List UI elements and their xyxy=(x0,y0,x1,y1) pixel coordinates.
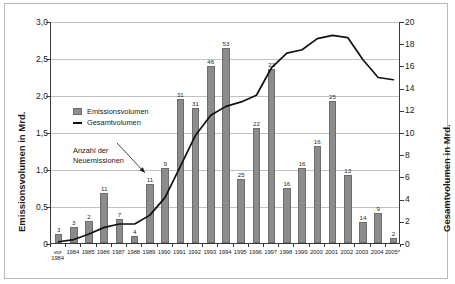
y-axis-right-tick-mark xyxy=(400,222,404,223)
chart-legend: Emissionsvolumen Gesamtvolumen xyxy=(73,106,149,128)
bar xyxy=(70,227,78,243)
x-axis-tick-mark xyxy=(202,244,203,247)
y-axis-right-tick-label: 4 xyxy=(405,194,435,204)
y-axis-right-tick-label: 8 xyxy=(405,150,435,160)
y-axis-left-tick-label: 0,5 xyxy=(8,202,48,212)
bar-value-label: 46 xyxy=(203,58,218,65)
bar-value-label: 31 xyxy=(188,100,203,107)
legend-line-swatch-icon xyxy=(73,122,82,124)
y-axis-left-tick-label: 2,0 xyxy=(8,91,48,101)
bar-value-label: 53 xyxy=(218,40,233,47)
x-axis-tick-mark xyxy=(400,244,401,247)
bar xyxy=(192,108,200,243)
x-axis-tick-mark xyxy=(172,244,173,247)
y-axis-left-tick-label: 1,0 xyxy=(8,165,48,175)
legend-label-emissionsvolumen: Emissionsvolumen xyxy=(87,106,149,117)
x-axis-tick-mark xyxy=(111,244,112,247)
bar-value-label: 4 xyxy=(127,228,142,235)
bar xyxy=(85,221,93,243)
bar-value-label: 2 xyxy=(81,213,96,220)
bar-value-label: 23 xyxy=(264,61,279,68)
bar xyxy=(283,188,291,243)
x-axis-tick-mark xyxy=(248,244,249,247)
bar-value-label: 16 xyxy=(279,180,294,187)
bar xyxy=(268,69,276,243)
bar xyxy=(177,99,185,243)
y-axis-right-title: Gesamtvolumen in Mrd. xyxy=(441,124,452,232)
legend-item-gesamtvolumen: Gesamtvolumen xyxy=(73,117,149,128)
y-axis-right-tick-label: 14 xyxy=(405,83,435,93)
x-axis-tick-mark xyxy=(65,244,66,247)
bar-value-label: 16 xyxy=(310,138,325,145)
x-axis-tick-mark xyxy=(126,244,127,247)
x-axis-tick-mark xyxy=(217,244,218,247)
x-axis-tick-mark xyxy=(187,244,188,247)
bar-value-label: 11 xyxy=(142,176,157,183)
y-axis-right-tick-mark xyxy=(400,155,404,156)
plot-area: 33211741193131465325222316161625131492 E… xyxy=(50,22,400,244)
bar-value-label: 7 xyxy=(112,211,127,218)
bar xyxy=(100,193,108,243)
y-axis-right-tick-label: 18 xyxy=(405,39,435,49)
bar xyxy=(161,168,169,243)
bar xyxy=(116,219,124,243)
x-axis-tick-mark xyxy=(233,244,234,247)
y-axis-right-tick-mark xyxy=(400,133,404,134)
bar-value-label: 3 xyxy=(51,226,66,233)
bar-value-label: 11 xyxy=(97,185,112,192)
y-axis-right-tick-mark xyxy=(400,66,404,67)
y-axis-right-tick-label: 12 xyxy=(405,105,435,115)
chart-figure: Emissionsvolumen in Mrd. Gesamtvolumen i… xyxy=(4,3,448,279)
x-axis-tick-mark xyxy=(339,244,340,247)
x-axis-tick-mark xyxy=(385,244,386,247)
bar xyxy=(344,175,352,243)
bar xyxy=(359,222,367,243)
bar xyxy=(314,146,322,243)
bar xyxy=(390,238,398,243)
x-axis-tick-mark xyxy=(141,244,142,247)
x-axis-tick-mark xyxy=(354,244,355,247)
x-axis-tick-mark xyxy=(157,244,158,247)
y-axis-left-tick-label: 1,5 xyxy=(8,128,48,138)
bar-value-label: 14 xyxy=(355,214,370,221)
x-axis-tick-mark xyxy=(80,244,81,247)
bar xyxy=(374,213,382,243)
x-axis-tick-label-line: 1984 xyxy=(46,255,69,261)
annotation-line-2: Neuemissionen xyxy=(73,156,124,166)
bar-value-label: 3 xyxy=(66,219,81,226)
y-axis-right-tick-mark xyxy=(400,44,404,45)
bar xyxy=(329,101,337,243)
y-axis-right-tick-label: 0 xyxy=(405,239,435,249)
y-axis-right-tick-label: 16 xyxy=(405,61,435,71)
bar xyxy=(146,184,154,243)
y-axis-right-tick-mark xyxy=(400,111,404,112)
bar xyxy=(222,48,230,243)
bar xyxy=(237,179,245,243)
bar-value-label: 16 xyxy=(294,160,309,167)
y-axis-right-tick-label: 6 xyxy=(405,172,435,182)
legend-label-gesamtvolumen: Gesamtvolumen xyxy=(87,117,141,128)
legend-bar-swatch-icon xyxy=(73,108,82,115)
x-axis-tick-mark xyxy=(370,244,371,247)
y-axis-left-tick-label: 0 xyxy=(8,239,48,249)
x-axis-tick-mark xyxy=(278,244,279,247)
y-axis-right-tick-label: 10 xyxy=(405,128,435,138)
x-axis-tick-mark xyxy=(293,244,294,247)
annotation-line-1: Anzahl der xyxy=(73,146,124,156)
y-axis-left-tick-label: 3,0 xyxy=(8,17,48,27)
y-axis-right-tick-mark xyxy=(400,89,404,90)
y-axis-right-tick-mark xyxy=(400,200,404,201)
bar-value-label: 25 xyxy=(234,171,249,178)
annotation-neuemissionen: Anzahl der Neuemissionen xyxy=(73,146,124,166)
x-axis-tick-mark xyxy=(309,244,310,247)
legend-item-emissionsvolumen: Emissionsvolumen xyxy=(73,106,149,117)
y-axis-right-tick-mark xyxy=(400,177,404,178)
x-axis-tick-mark xyxy=(96,244,97,247)
bar xyxy=(55,234,63,243)
bar-value-label: 22 xyxy=(249,120,264,127)
bar-value-label: 25 xyxy=(325,93,340,100)
bar-value-label: 13 xyxy=(340,167,355,174)
x-axis-tick-mark xyxy=(263,244,264,247)
bar xyxy=(253,128,261,243)
bar xyxy=(131,236,139,243)
